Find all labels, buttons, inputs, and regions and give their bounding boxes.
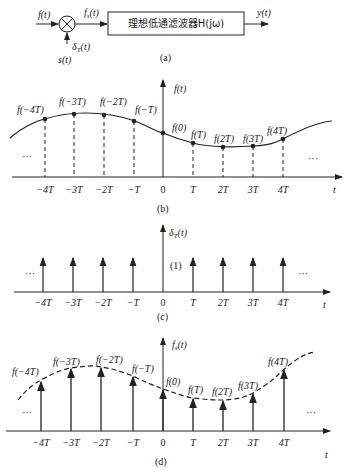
ellipsis: ··· [22, 151, 32, 162]
sampled-label: fs(t) [84, 7, 100, 20]
panel-d: fs(t) f(−4T) f(−3T) f(−2T) f(−T) f(0) f(… [6, 338, 330, 468]
filter-label: 理想低通滤波器H(jω) [128, 17, 225, 29]
c-ylabel: δT(t) [169, 227, 188, 240]
svg-text:2T: 2T [218, 184, 230, 195]
svg-text:t: t [333, 184, 336, 195]
ellipsis: ··· [306, 407, 316, 418]
svg-text:0: 0 [161, 184, 166, 195]
b-sample-label: f(−3T) [59, 96, 86, 108]
caption-c: (c) [157, 311, 168, 323]
b-ylabel: f(t) [174, 83, 187, 95]
svg-text:−2T: −2T [92, 437, 111, 448]
svg-text:−T: −T [128, 184, 142, 195]
svg-text:−2T: −2T [95, 184, 114, 195]
svg-text:−3T: −3T [65, 184, 84, 195]
d-sample-label: f(−3T) [53, 356, 80, 368]
svg-text:−2T: −2T [94, 297, 113, 308]
svg-text:t: t [323, 299, 326, 310]
b-sample-label: f(4T) [267, 125, 288, 137]
svg-text:3T: 3T [247, 297, 260, 308]
b-sample-label: f(−2T) [100, 96, 127, 108]
d-sample-label: f(−2T) [96, 354, 123, 366]
svg-text:T: T [190, 297, 197, 308]
impulse-weight: (1) [170, 260, 182, 272]
ellipsis: ··· [25, 268, 35, 279]
svg-text:4T: 4T [278, 184, 290, 195]
d-sample-label: f(0) [166, 376, 181, 388]
svg-text:2T: 2T [218, 437, 230, 448]
d-sample-label: f(2T) [212, 386, 233, 398]
svg-text:−4T: −4T [36, 184, 55, 195]
c-ticks: −4T −3T −2T −T 0 T 2T 3T 4T t [34, 297, 326, 310]
ellipsis: ··· [308, 153, 318, 164]
multiplier-icon [59, 16, 75, 32]
b-sample-label: f(3T) [243, 133, 264, 145]
block-diagram: f(t) δT(t) s(t) fs(t) 理想低通滤波器H(jω) y(t) … [36, 7, 272, 66]
svg-text:−3T: −3T [62, 437, 81, 448]
panel-b: f(t) f(−4T) f(−3T) f(−2T) f(−T) f(0) f(T… [10, 80, 342, 215]
s-label: s(t) [58, 54, 72, 66]
svg-text:4T: 4T [278, 297, 290, 308]
caption-b: (b) [157, 203, 169, 215]
svg-text:0: 0 [161, 437, 166, 448]
d-sample-label: f(−4T) [12, 366, 39, 378]
svg-text:−T: −T [127, 297, 141, 308]
d-ylabel: fs(t) [172, 339, 188, 352]
d-sample-label: f(−T) [132, 363, 154, 375]
b-ticks: −4T −3T −2T −T 0 T 2T 3T 4T t [36, 184, 336, 195]
b-sample-label: f(−T) [135, 104, 157, 116]
svg-text:−3T: −3T [64, 297, 83, 308]
svg-text:−4T: −4T [34, 297, 53, 308]
b-sample-label: f(0) [172, 122, 187, 134]
svg-text:3T: 3T [247, 184, 260, 195]
panel-c: δT(t) (1) ··· ··· −4T −3T −2T −T 0 T 2T … [14, 225, 330, 323]
svg-text:3T: 3T [247, 437, 260, 448]
d-sample-label: f(3T) [238, 380, 259, 392]
ellipsis: ··· [298, 268, 308, 279]
svg-text:0: 0 [161, 297, 166, 308]
output-label: y(t) [256, 7, 272, 19]
svg-text:T: T [190, 437, 197, 448]
sampling-diagram: f(t) δT(t) s(t) fs(t) 理想低通滤波器H(jω) y(t) … [0, 0, 353, 473]
svg-text:−T: −T [127, 437, 141, 448]
svg-text:t: t [325, 449, 328, 460]
b-sample-label: f(−4T) [17, 104, 44, 116]
b-sample-label: f(T) [191, 129, 207, 141]
svg-text:T: T [190, 184, 197, 195]
impulse-train-label: δT(t) [72, 41, 91, 54]
d-sample-label: f(T) [188, 384, 204, 396]
input-label: f(t) [38, 9, 51, 21]
d-ticks: −4T −3T −2T −T 0 T 2T 3T 4T t [32, 437, 328, 460]
caption-a: (a) [160, 52, 171, 64]
svg-text:4T: 4T [279, 437, 291, 448]
ellipsis: ··· [22, 407, 32, 418]
svg-text:−4T: −4T [32, 437, 51, 448]
svg-text:2T: 2T [218, 297, 230, 308]
b-sample-label: f(2T) [214, 133, 235, 145]
d-sample-label: f(4T) [268, 356, 289, 368]
caption-d: (d) [155, 456, 167, 468]
